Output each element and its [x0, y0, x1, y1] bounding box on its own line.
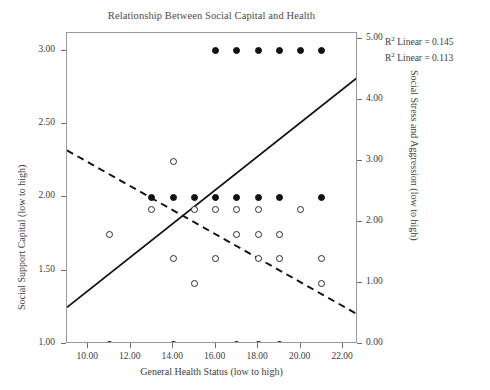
y-axis-left-title: Social Support Capital (low to high) [16, 165, 27, 310]
y-axis-right-tickmark [357, 343, 362, 344]
data-point-open [191, 280, 198, 287]
y-axis-right-tick-label: 0.00 [366, 337, 400, 347]
y-axis-right-tickmark [357, 221, 362, 222]
r-squared-linear-2: R2 Linear = 0.113 [385, 49, 454, 65]
x-axis-tick-label: 20.00 [280, 351, 320, 361]
data-point-open [276, 255, 283, 262]
x-axis-tickmark [300, 343, 301, 348]
y-axis-left-tickmark [61, 123, 66, 124]
x-axis-tickmark [215, 343, 216, 348]
trend-line-support-fit [67, 77, 356, 307]
data-point-open [170, 158, 177, 165]
data-point-filled [255, 47, 262, 54]
x-axis-tick-label: 18.00 [237, 351, 277, 361]
x-axis-tick-label: 12.00 [110, 351, 150, 361]
y-axis-right-tickmark [357, 160, 362, 161]
data-point-open [106, 231, 113, 238]
x-axis-tickmark [130, 343, 131, 348]
r-value-2: Linear = 0.113 [395, 53, 453, 63]
data-point-filled [276, 194, 283, 201]
x-axis-tick-label: 22.00 [322, 351, 362, 361]
y-axis-right-tickmark [357, 38, 362, 39]
data-point-filled [212, 194, 219, 201]
x-axis-title: General Health Status (low to high) [66, 366, 357, 377]
data-point-filled [170, 194, 177, 201]
x-axis-tickmark [342, 343, 343, 348]
y-axis-right-tick-label: 5.00 [366, 32, 400, 42]
y-axis-left-tickmark [61, 196, 66, 197]
trend-lines [67, 33, 356, 342]
x-axis-tick-label: 10.00 [67, 351, 107, 361]
plot-canvas [67, 33, 356, 342]
y-axis-right-tickmark [357, 99, 362, 100]
y-axis-left-tickmark [61, 50, 66, 51]
y-axis-right-tick-label: 3.00 [366, 154, 400, 164]
y-axis-right-title: Social Stress and Aggression (low to hig… [409, 70, 420, 241]
data-point-open [318, 280, 325, 287]
chart-figure: Relationship Between Social Capital and … [0, 0, 490, 390]
data-point-open [255, 255, 262, 262]
x-axis-tick-label: 16.00 [195, 351, 235, 361]
y-axis-right-tick-label: 4.00 [366, 93, 400, 103]
data-point-filled [191, 194, 198, 201]
plot-area [66, 32, 357, 343]
chart-title: Relationship Between Social Capital and … [66, 10, 357, 21]
y-axis-right-tick-label: 2.00 [366, 215, 400, 225]
x-axis-tickmark [172, 343, 173, 348]
x-axis-tickmark [257, 343, 258, 348]
data-point-open [276, 231, 283, 238]
data-point-filled [255, 341, 262, 343]
data-point-filled [255, 194, 262, 201]
y-axis-left-tick-label: 2.50 [21, 117, 55, 127]
data-point-filled [276, 47, 283, 54]
x-axis-tickmark [87, 343, 88, 348]
y-axis-left-tickmark [61, 343, 66, 344]
y-axis-left-tick-label: 3.00 [21, 44, 55, 54]
r-value-1: Linear = 0.145 [395, 37, 454, 47]
y-axis-right-tick-label: 1.00 [366, 276, 400, 286]
data-point-open [255, 231, 262, 238]
data-point-open [255, 206, 262, 213]
y-axis-right-tickmark [357, 282, 362, 283]
y-axis-left-tickmark [61, 270, 66, 271]
y-axis-left-tick-label: 1.00 [21, 337, 55, 347]
x-axis-tick-label: 14.00 [152, 351, 192, 361]
data-point-open [170, 255, 177, 262]
